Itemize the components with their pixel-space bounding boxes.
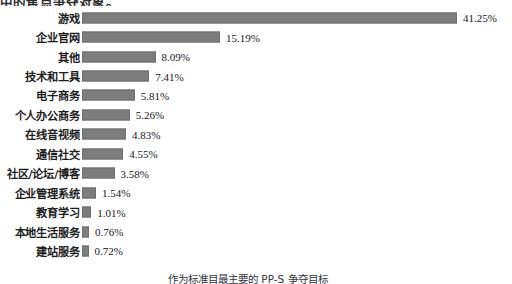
bar-value-label: 41.25% [463, 12, 497, 24]
bar-row: 其他8.09% [0, 47, 512, 66]
bar [82, 109, 130, 120]
bar-category-label: 社区/论坛/博客 [7, 165, 80, 181]
bar-and-value: 1.54% [82, 187, 130, 198]
chart-plot-area: 游戏41.25%企业官网15.19%其他8.09%技术和工具7.41%电子商务5… [0, 8, 512, 270]
bar-and-value: 8.09% [82, 51, 190, 62]
bar-row: 个人办公商务5.26% [0, 105, 512, 124]
bar-category-label: 企业官网 [36, 29, 80, 45]
bar-and-value: 15.19% [82, 32, 260, 43]
bar-and-value: 7.41% [82, 71, 184, 82]
bar-value-label: 8.09% [162, 51, 190, 63]
bar-category-label: 教育学习 [36, 204, 80, 220]
bar-category-label: 建站服务 [36, 243, 80, 259]
bar-category-label: 游戏 [58, 10, 80, 26]
bar-and-value: 5.26% [82, 109, 164, 120]
bar-category-label: 其他 [58, 49, 80, 65]
bar-value-label: 1.01% [97, 206, 125, 218]
bar-and-value: 3.58% [82, 168, 149, 179]
bar [82, 71, 149, 82]
bar-value-label: 4.55% [129, 148, 157, 160]
bar [82, 12, 457, 23]
bar-category-label: 电子商务 [36, 87, 80, 103]
bar [82, 32, 220, 43]
chart-title-clipped: 中的焦点争夺对象。 [0, 0, 300, 6]
bar-value-label: 15.19% [226, 31, 260, 43]
bar-row: 教育学习1.01% [0, 202, 512, 221]
chart-footnote-clipped: 作为标准目最主要的 PP-S 争夺目标 [168, 271, 498, 284]
bar [82, 51, 156, 62]
bar-row: 技术和工具7.41% [0, 66, 512, 85]
bar-value-label: 0.72% [95, 245, 123, 257]
bar-category-label: 在线音视频 [25, 126, 80, 142]
bar-category-label: 企业管理系统 [15, 185, 80, 201]
bar-row: 本地生活服务0.76% [0, 222, 512, 241]
bar-category-label: 技术和工具 [25, 68, 80, 84]
bar-and-value: 4.55% [82, 148, 158, 159]
bar-value-label: 5.81% [141, 89, 169, 101]
bar-category-label: 本地生活服务 [15, 224, 80, 240]
bar-and-value: 1.01% [82, 207, 126, 218]
bar-value-label: 1.54% [102, 187, 130, 199]
bar-category-label: 个人办公商务 [15, 107, 80, 123]
bar [82, 245, 89, 256]
bar-row: 社区/论坛/博客3.58% [0, 164, 512, 183]
bar [82, 90, 135, 101]
bar [82, 207, 91, 218]
bar-row: 企业管理系统1.54% [0, 183, 512, 202]
bar-row: 电子商务5.81% [0, 86, 512, 105]
bar [82, 226, 89, 237]
bar-and-value: 5.81% [82, 90, 169, 101]
bar [82, 148, 123, 159]
bar-row: 企业官网15.19% [0, 27, 512, 46]
bar-and-value: 0.76% [82, 226, 123, 237]
bar-row: 在线音视频4.83% [0, 125, 512, 144]
bar [82, 129, 126, 140]
bar-row: 建站服务0.72% [0, 241, 512, 260]
bar-and-value: 4.83% [82, 129, 160, 140]
bar-category-label: 通信社交 [36, 146, 80, 162]
bar-value-label: 7.41% [155, 70, 183, 82]
bar [82, 168, 115, 179]
bar-and-value: 41.25% [82, 12, 497, 23]
bar-row: 通信社交4.55% [0, 144, 512, 163]
bar-row: 游戏41.25% [0, 8, 512, 27]
bar [82, 187, 96, 198]
bar-and-value: 0.72% [82, 245, 123, 256]
bar-value-label: 0.76% [95, 226, 123, 238]
bar-value-label: 4.83% [132, 128, 160, 140]
bar-value-label: 5.26% [136, 109, 164, 121]
bar-value-label: 3.58% [121, 167, 149, 179]
